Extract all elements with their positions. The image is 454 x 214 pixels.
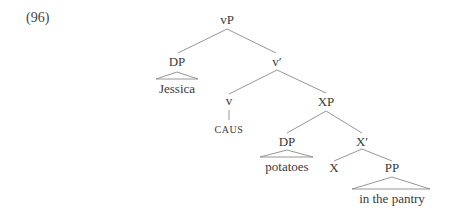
node-X: X [329, 160, 339, 175]
node-vbar: v′ [272, 54, 282, 69]
triangle-DP-object [260, 150, 313, 157]
node-vP: vP [220, 12, 234, 27]
branch-vbar-v [229, 70, 277, 94]
branch-XP-DP [287, 111, 326, 133]
node-v: v [226, 93, 233, 108]
node-XP: XP [318, 94, 335, 109]
branch-XP-Xbar [326, 111, 362, 133]
node-PP: PP [385, 160, 399, 175]
node-DP-subject: DP [169, 54, 186, 69]
triangle-PP [352, 177, 430, 189]
branch-vP-vbar [227, 29, 276, 53]
node-DP-object: DP [279, 134, 296, 149]
syntax-tree: vP DP Jessica v′ v CAUS XP DP potatoes X… [0, 0, 454, 214]
leaf-potatoes: potatoes [265, 159, 308, 174]
branch-vP-DP [178, 29, 227, 53]
triangle-DP-subject [156, 72, 198, 79]
leaf-jessica: Jessica [159, 81, 195, 96]
node-Xbar: X′ [356, 134, 368, 149]
branch-vbar-XP [277, 70, 326, 93]
leaf-in-the-pantry: in the pantry [359, 191, 425, 206]
leaf-caus: CAUS [214, 124, 243, 135]
